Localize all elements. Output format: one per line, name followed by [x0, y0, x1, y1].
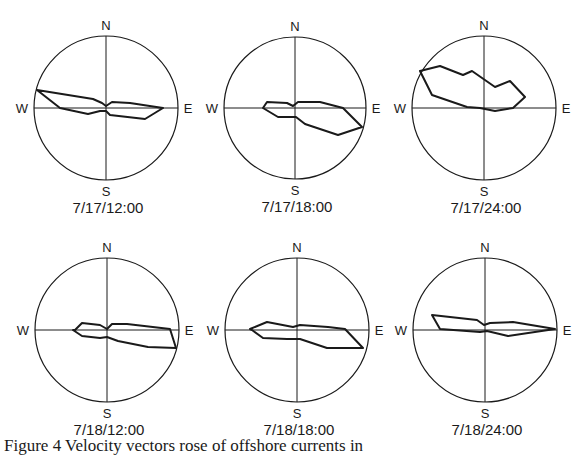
- plot-timestamp: 7/17/12:00: [73, 199, 144, 216]
- velocity-rose-polygon: [37, 90, 163, 119]
- west-label: W: [207, 323, 220, 338]
- figure-caption: Figure 4 Velocity vectors rose of offsho…: [4, 436, 363, 456]
- north-label: N: [102, 240, 111, 255]
- plot-timestamp: 7/17/18:00: [262, 198, 333, 215]
- east-label: E: [185, 323, 194, 338]
- north-label: N: [101, 18, 110, 33]
- north-label: N: [479, 18, 488, 33]
- east-label: E: [563, 323, 572, 338]
- east-label: E: [375, 323, 384, 338]
- west-label: W: [206, 101, 219, 116]
- velocity-rose-polygon: [432, 315, 555, 336]
- east-label: E: [372, 101, 381, 116]
- west-label: W: [394, 101, 407, 116]
- velocity-rose-polygon: [250, 322, 363, 348]
- south-label: S: [481, 406, 490, 421]
- south-label: S: [103, 406, 112, 421]
- north-label: N: [292, 240, 301, 255]
- rose-plot: NSWE7/17/12:00: [16, 18, 193, 216]
- rose-plot: NSWE7/17/24:00: [394, 18, 571, 216]
- north-label: N: [290, 19, 299, 34]
- west-label: W: [395, 323, 408, 338]
- velocity-rose-polygon: [420, 66, 525, 111]
- north-label: N: [480, 240, 489, 255]
- west-label: W: [16, 101, 29, 116]
- rose-plot: NSWE7/18/24:00: [395, 240, 572, 438]
- plot-timestamp: 7/18/24:00: [452, 421, 523, 438]
- velocity-rose-polygon: [73, 323, 176, 348]
- rose-plot: NSWE7/18/12:00: [17, 240, 194, 438]
- velocity-rose-polygon: [263, 102, 362, 135]
- plot-timestamp: 7/17/24:00: [451, 199, 522, 216]
- west-label: W: [17, 323, 30, 338]
- south-label: S: [102, 184, 111, 199]
- east-label: E: [562, 101, 571, 116]
- south-label: S: [480, 184, 489, 199]
- south-label: S: [293, 406, 302, 421]
- east-label: E: [184, 101, 193, 116]
- south-label: S: [291, 183, 300, 198]
- rose-plot: NSWE7/17/18:00: [206, 19, 381, 215]
- rose-plot: NSWE7/18/18:00: [207, 240, 384, 438]
